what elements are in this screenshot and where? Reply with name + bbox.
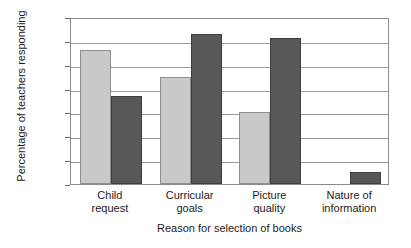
bar [111, 96, 142, 184]
gridline [71, 67, 388, 68]
bar-chart-figure: Percentage of teachers responding 010203… [0, 0, 411, 248]
x-axis-title: Reason for selection of books [70, 222, 389, 235]
y-tick-mark [65, 185, 70, 186]
bar [80, 50, 111, 184]
bar [270, 38, 301, 184]
gridline [71, 91, 388, 92]
bar [239, 112, 270, 184]
x-tick-label: Nature ofinformation [289, 189, 409, 215]
x-tick-label-line: Nature of [289, 189, 409, 202]
bar [191, 34, 222, 184]
plot-area [70, 18, 389, 185]
bar [160, 77, 191, 184]
x-tick-label-line: information [289, 202, 409, 215]
gridline [71, 43, 388, 44]
bar [350, 172, 381, 184]
